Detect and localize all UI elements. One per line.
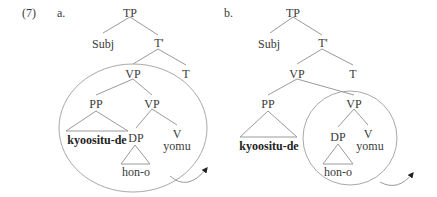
tree-b: b. TP Subj T' VP T PP VP kyoositu-de DP … (224, 6, 413, 185)
node-dp: DP (128, 131, 144, 145)
node-tp: TP (286, 6, 300, 20)
tree-label: a. (57, 6, 65, 20)
node-t: T (349, 67, 357, 81)
leaf-kyoositu-de: kyoositu-de (67, 133, 127, 147)
node-vp-top: VP (125, 67, 141, 81)
node-pp: PP (89, 97, 103, 111)
leaf-yomu: yomu (356, 139, 383, 153)
tree-label: b. (224, 6, 233, 20)
leaf-kyoositu-de: kyoositu-de (239, 139, 299, 153)
node-tbar: T' (154, 36, 164, 50)
leaf-yomu: yomu (163, 139, 190, 153)
node-subj: Subj (92, 37, 114, 51)
node-vp-top: VP (289, 67, 305, 81)
example-number: (7) (22, 6, 36, 20)
node-subj: Subj (258, 37, 280, 51)
leaf-hon-o: hon-o (324, 165, 352, 179)
syntax-tree-diagram: (7) a. TP Subj T' VP T PP VP kyoositu-de… (0, 0, 437, 197)
node-vp-low: VP (346, 97, 362, 111)
node-tp: TP (123, 6, 137, 20)
node-t: T (182, 67, 190, 81)
node-dp: DP (330, 130, 346, 144)
node-pp: PP (261, 97, 275, 111)
leaf-hon-o: hon-o (122, 165, 150, 179)
node-tbar: T' (318, 36, 328, 50)
node-vp-low: VP (144, 97, 160, 111)
tree-a: a. TP Subj T' VP T PP VP kyoositu-de DP … (57, 6, 207, 192)
